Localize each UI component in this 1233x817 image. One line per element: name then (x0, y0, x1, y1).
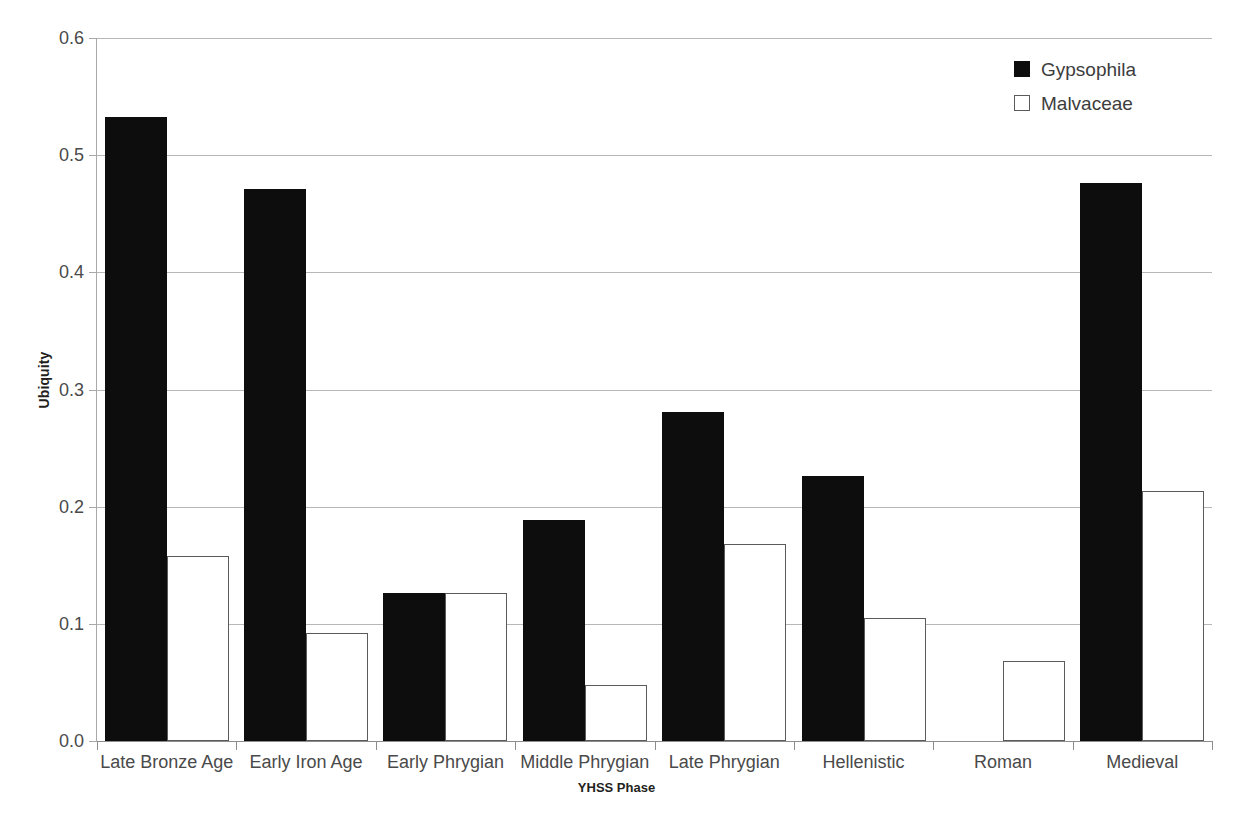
x-tick-mark (655, 741, 656, 750)
gridline (97, 155, 1212, 156)
x-tick-mark (515, 741, 516, 750)
gridline (97, 38, 1212, 39)
bar-chart: Ubiquity 0.60.50.40.30.20.10.0 Late Bron… (0, 0, 1233, 817)
y-tick-mark (89, 155, 97, 156)
y-tick-label: 0.6 (38, 29, 84, 47)
y-tick-mark (89, 38, 97, 39)
x-tick-mark (376, 741, 377, 750)
y-tick-label: 0.3 (38, 381, 84, 399)
x-tick-mark (236, 741, 237, 750)
x-tick-mark (933, 741, 934, 750)
x-category-label: Medieval (1042, 752, 1233, 772)
legend-label: Gypsophila (1041, 60, 1136, 79)
legend-label: Malvaceae (1041, 94, 1133, 113)
x-axis-title: YHSS Phase (0, 780, 1233, 795)
y-tick-mark (89, 624, 97, 625)
x-tick-mark (1073, 741, 1074, 750)
bar-gypsophila-middle-phrygian (523, 520, 585, 741)
bar-gypsophila-late-bronze-age (105, 117, 167, 741)
bar-malvaceae-medieval (1142, 491, 1204, 741)
y-tick-label: 0.0 (38, 732, 84, 750)
y-tick-label: 0.1 (38, 615, 84, 633)
bar-malvaceae-hellenistic (864, 618, 926, 741)
y-tick-mark (89, 507, 97, 508)
bar-malvaceae-early-iron-age (306, 633, 368, 741)
bar-malvaceae-middle-phrygian (585, 685, 647, 741)
bar-gypsophila-medieval (1080, 183, 1142, 741)
bar-gypsophila-early-phrygian (383, 593, 445, 741)
legend-item-malvaceae: Malvaceae (1014, 86, 1204, 120)
y-tick-label: 0.5 (38, 146, 84, 164)
x-tick-mark (97, 741, 98, 750)
y-tick-mark (89, 741, 97, 742)
bar-malvaceae-roman (1003, 661, 1065, 741)
legend-item-gypsophila: Gypsophila (1014, 52, 1204, 86)
y-tick-label: 0.2 (38, 498, 84, 516)
x-tick-mark (794, 741, 795, 750)
y-tick-label: 0.4 (38, 263, 84, 281)
legend-swatch-icon (1014, 95, 1030, 111)
bar-gypsophila-early-iron-age (244, 189, 306, 741)
bar-malvaceae-late-bronze-age (167, 556, 229, 741)
x-tick-mark (1212, 741, 1213, 750)
bar-malvaceae-early-phrygian (445, 593, 507, 741)
y-tick-mark (89, 390, 97, 391)
legend-swatch-icon (1014, 61, 1030, 77)
legend: Gypsophila Malvaceae (1014, 52, 1204, 120)
bar-gypsophila-late-phrygian (662, 412, 724, 741)
y-tick-mark (89, 272, 97, 273)
bar-gypsophila-hellenistic (802, 476, 864, 741)
bar-malvaceae-late-phrygian (724, 544, 786, 741)
plot-area (97, 38, 1212, 741)
